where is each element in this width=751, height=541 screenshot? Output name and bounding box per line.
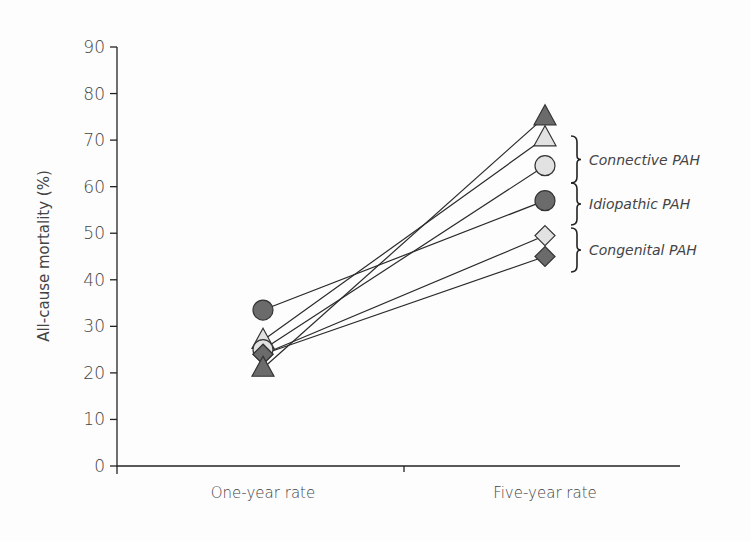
group-label: Connective PAH	[589, 152, 700, 168]
series-line	[263, 166, 545, 350]
circle-marker-icon	[535, 191, 555, 211]
series-line	[263, 201, 545, 310]
series-line	[263, 257, 545, 355]
y-tick-label: 60	[83, 177, 105, 197]
diamond-marker-icon	[535, 247, 555, 267]
y-tick-label: 20	[83, 363, 105, 383]
y-axis-title: All-cause mortality (%)	[35, 170, 53, 342]
circle-marker-icon	[253, 300, 273, 320]
series-markers	[252, 105, 556, 376]
triangle-marker-icon	[534, 126, 556, 146]
y-tick-label: 80	[83, 84, 105, 104]
series-line	[263, 117, 545, 368]
x-tick-label-five-year: Five-year rate	[493, 484, 597, 502]
y-tick-label: 70	[83, 130, 105, 150]
x-tick-label-one-year: One-year rate	[211, 484, 315, 502]
triangle-marker-icon	[534, 105, 556, 125]
chart: 0102030405060708090 Connective PAHIdiopa…	[0, 0, 751, 541]
group-legend: Connective PAHIdiopathic PAHCongenital P…	[571, 136, 700, 272]
y-tick-label: 40	[83, 270, 105, 290]
circle-marker-icon	[535, 156, 555, 176]
series-line	[263, 236, 545, 355]
y-tick-label: 10	[83, 409, 105, 429]
group-label: Idiopathic PAH	[589, 196, 691, 212]
triangle-marker-icon	[252, 356, 274, 376]
y-tick-label: 30	[83, 316, 105, 336]
series-line	[263, 138, 545, 341]
y-tick-label: 50	[83, 223, 105, 243]
y-tick-label: 90	[83, 37, 105, 57]
brace-icon	[571, 136, 581, 183]
group-label: Congenital PAH	[589, 242, 697, 258]
diamond-marker-icon	[535, 226, 555, 246]
brace-icon	[571, 183, 581, 225]
y-tick-label: 0	[94, 456, 105, 476]
brace-icon	[571, 228, 581, 272]
series-lines	[263, 117, 545, 368]
